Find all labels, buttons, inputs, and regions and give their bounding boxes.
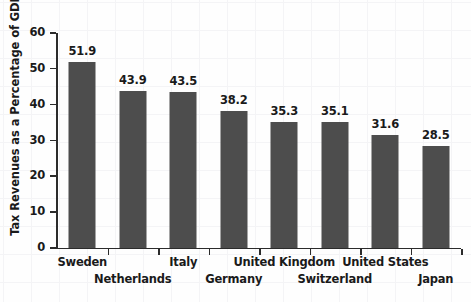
bar-chart: Tax Revenues as a Percentage of GDP 0102… [0,0,471,302]
bar[interactable] [422,146,449,248]
y-tick-mark [50,32,56,34]
bar[interactable] [321,122,348,248]
y-tick-mark [50,211,56,213]
bar-value-label: 28.5 [422,128,450,142]
bar-group: 28.5 [411,33,462,248]
bar[interactable] [220,111,247,248]
bar-value-label: 51.9 [68,44,96,58]
y-tick-mark [50,247,56,249]
y-tick-mark [50,68,56,70]
bar-group: 31.6 [360,33,411,248]
bars-layer: 51.943.943.538.235.335.131.628.5 [57,33,461,248]
bar-group: 51.9 [57,33,108,248]
bar-value-label: 43.5 [169,74,197,88]
x-axis-category-label: United States [342,255,428,269]
bar-group: 43.9 [108,33,159,248]
y-tick-mark [50,175,56,177]
bar[interactable] [372,135,399,248]
y-tick-label: 20 [0,168,45,182]
y-tick-label: 60 [0,25,45,39]
bar-value-label: 31.6 [371,117,399,131]
x-tick-mark [108,249,110,255]
x-axis-category-label: Switzerland [298,272,372,286]
y-tick-label: 30 [0,133,45,147]
x-tick-mark [209,249,211,255]
bar-value-label: 35.3 [270,104,298,118]
bar-group: 38.2 [209,33,260,248]
x-axis-category-label: Germany [205,272,262,286]
x-axis-category-label: Italy [169,255,197,269]
x-axis-category-label: United Kingdom [233,255,335,269]
bar[interactable] [69,62,96,248]
bar[interactable] [119,91,146,248]
y-tick-mark [50,140,56,142]
x-tick-mark [158,249,160,255]
x-axis-category-label: Netherlands [94,272,171,286]
bar[interactable] [271,122,298,248]
bar-group: 35.3 [259,33,310,248]
bar[interactable] [170,92,197,248]
y-tick-label: 40 [0,97,45,111]
bar-group: 35.1 [310,33,361,248]
bar-value-label: 43.9 [119,73,147,87]
x-axis-category-label: Japan [418,272,453,286]
bar-group: 43.5 [158,33,209,248]
bar-value-label: 35.1 [321,104,349,118]
bar-value-label: 38.2 [220,93,248,107]
x-axis-category-label: Sweden [57,255,107,269]
y-tick-mark [50,104,56,106]
y-tick-label: 10 [0,204,45,218]
y-tick-label: 0 [0,240,45,254]
y-tick-label: 50 [0,61,45,75]
x-tick-mark [461,249,463,255]
